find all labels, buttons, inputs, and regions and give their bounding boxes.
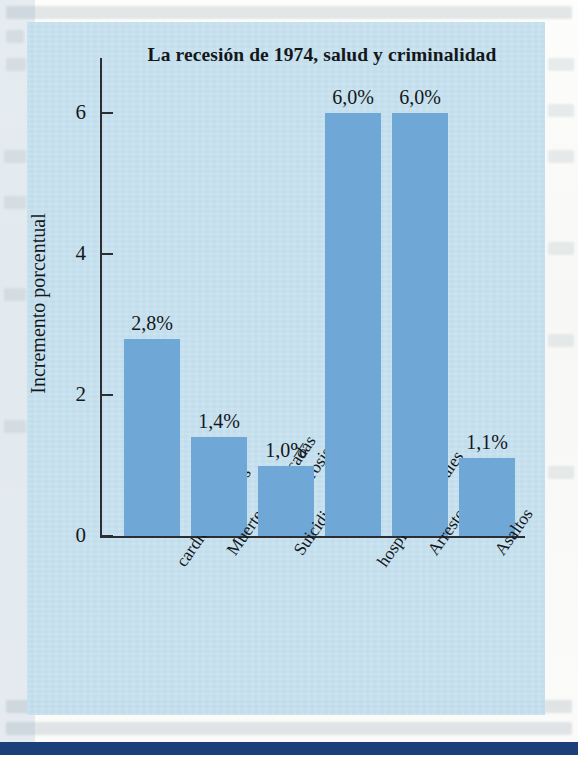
y-axis-tick bbox=[102, 253, 113, 255]
bar-value-label: 1,4% bbox=[177, 411, 261, 431]
y-axis-title: Incremento porcentual bbox=[27, 174, 50, 434]
bar-value-label: 1,0% bbox=[244, 440, 328, 460]
bar-value-label: 2,8% bbox=[110, 313, 194, 333]
y-axis-tick-label: 4 bbox=[64, 243, 86, 264]
y-axis-tick bbox=[102, 535, 113, 537]
y-axis-tick-label: 2 bbox=[64, 384, 86, 405]
bar bbox=[392, 113, 448, 536]
bar-value-label: 6,0% bbox=[378, 87, 462, 107]
bar bbox=[124, 339, 180, 536]
page-footer-band bbox=[0, 742, 578, 755]
bar-chart: La recesión de 1974, salud y criminalida… bbox=[0, 0, 578, 762]
bar bbox=[191, 437, 247, 536]
y-axis-tick-label: 6 bbox=[64, 102, 86, 123]
y-axis-tick bbox=[102, 394, 113, 396]
y-axis-tick-label: 0 bbox=[64, 525, 86, 546]
bar bbox=[325, 113, 381, 536]
chart-title: La recesión de 1974, salud y criminalida… bbox=[112, 44, 532, 66]
bar-value-label: 1,1% bbox=[445, 432, 529, 452]
y-axis-tick bbox=[102, 112, 113, 114]
page-footer-edge bbox=[0, 755, 578, 762]
y-axis-line bbox=[100, 58, 102, 538]
